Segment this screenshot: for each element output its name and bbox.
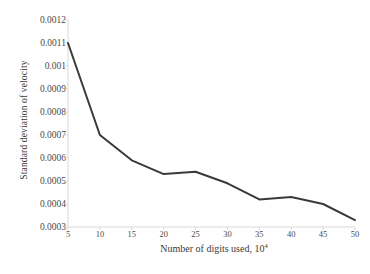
x-axis-title-exponent: 4	[264, 242, 267, 249]
x-axis-title-text: Number of digits used, 10	[160, 243, 264, 254]
axis-lines	[68, 20, 355, 227]
plot-area	[0, 0, 370, 274]
x-axis-title: Number of digits used, 104	[68, 243, 360, 254]
data-series-line	[68, 43, 355, 220]
axis-tick-marks	[65, 20, 355, 230]
chart-figure: Standard deviation of velocity 0.00030.0…	[0, 0, 370, 274]
